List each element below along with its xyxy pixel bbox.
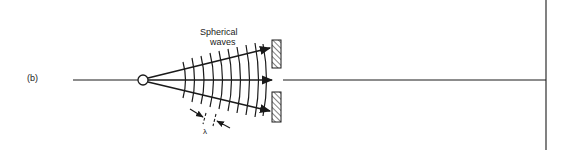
- annotation-spherical: Spherical: [200, 27, 238, 37]
- point-source: [138, 75, 148, 85]
- annotation-waves: waves: [209, 37, 236, 47]
- upper-barrier: [272, 40, 281, 68]
- ray-lower: [148, 82, 270, 111]
- ray-upper: [148, 48, 270, 78]
- wavelength-marker: [190, 109, 230, 128]
- double-slit-diagram: (b) λ Spherical waves: [0, 0, 576, 154]
- wavelength-label: λ: [203, 127, 207, 136]
- panel-label: (b): [27, 73, 38, 83]
- lower-barrier: [272, 92, 281, 122]
